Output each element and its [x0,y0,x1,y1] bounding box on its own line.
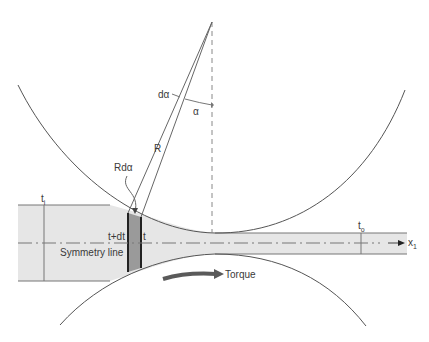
symmetry-line-label: Symmetry line [60,247,124,258]
radius-line-inner [141,22,212,217]
element-right-label: t [143,231,146,242]
rdalpha-label: Rdα [114,162,133,173]
torque-arrow-shaft [163,274,216,279]
entry-thickness-label: ti [41,193,46,206]
radius-label: R [154,143,161,154]
torque-arrowhead [214,269,224,279]
alpha-arc [185,99,212,105]
radius-line-outer [128,22,212,213]
element-left-label: t+dt [108,231,125,242]
dalpha-leader [172,94,180,97]
torque-label: Torque [225,269,256,280]
dalpha-label: dα [158,89,170,100]
alpha-label: α [193,106,199,117]
rolling-diagram: dα α R Rdα ti to t+dt t Symmetry line x1… [0,0,429,342]
x1-axis-label: x1 [408,237,417,250]
exit-thickness-label: to [358,220,365,233]
